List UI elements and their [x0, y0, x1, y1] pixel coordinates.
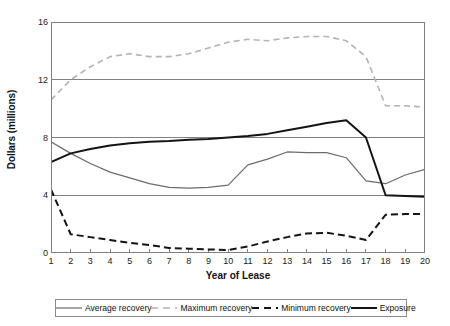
legend-swatch-dashed-line-icon [252, 304, 278, 312]
legend-item-average-recovery[interactable]: Average recovery [56, 304, 151, 313]
x-tick-label: 2 [61, 256, 81, 266]
legend-label: Minimum recovery [281, 304, 350, 313]
y-tick-label: 12 [26, 75, 48, 85]
y-tick-label: 16 [26, 17, 48, 27]
series-minimum-recovery [51, 189, 425, 250]
legend-item-maximum-recovery[interactable]: Maximum recovery [151, 304, 252, 313]
x-tick-label: 19 [395, 256, 415, 266]
y-tick-label: 4 [26, 190, 48, 200]
plot-svg [51, 22, 425, 253]
x-tick-label: 11 [238, 256, 258, 266]
x-tick-label: 3 [80, 256, 100, 266]
chart-figure: Dollars (millions) 0481216 1234567891011… [0, 0, 450, 326]
x-tick-label: 17 [356, 256, 376, 266]
x-tick-label: 13 [277, 256, 297, 266]
legend-label: Average recovery [85, 304, 151, 313]
legend-item-minimum-recovery[interactable]: Minimum recovery [252, 304, 350, 313]
legend-item-exposure[interactable]: Exposure [351, 304, 416, 313]
legend-label: Maximum recovery [180, 304, 252, 313]
legend-swatch-solid-line-icon [56, 304, 82, 312]
x-tick-label: 5 [120, 256, 140, 266]
x-tick-label: 20 [415, 256, 435, 266]
x-tick-label: 10 [218, 256, 238, 266]
x-tick-label: 1 [41, 256, 61, 266]
x-axis-title: Year of Lease [51, 270, 425, 281]
y-axis-tick-labels: 0481216 [22, 0, 48, 326]
x-tick-label: 14 [297, 256, 317, 266]
series-exposure [51, 120, 425, 197]
x-tick-label: 12 [258, 256, 278, 266]
x-tick-label: 6 [139, 256, 159, 266]
x-tick-label: 16 [336, 256, 356, 266]
legend-swatch-solid-line-icon [351, 304, 377, 312]
series-maximum-recovery [51, 36, 425, 107]
x-tick-label: 15 [317, 256, 337, 266]
series-lines [51, 36, 425, 250]
chart-legend: Average recoveryMaximum recoveryMinimum … [55, 299, 407, 317]
x-tick-label: 7 [159, 256, 179, 266]
legend-label: Exposure [380, 304, 416, 313]
x-tick-label: 8 [179, 256, 199, 266]
y-axis-title-text: Dollars (millions) [7, 89, 18, 168]
y-tick-label: 8 [26, 133, 48, 143]
x-tick-label: 18 [376, 256, 396, 266]
plot-area [51, 22, 425, 253]
x-tick-label: 9 [198, 256, 218, 266]
x-tick-label: 4 [100, 256, 120, 266]
legend-swatch-dashed-line-icon [151, 304, 177, 312]
y-axis-title: Dollars (millions) [0, 0, 24, 258]
